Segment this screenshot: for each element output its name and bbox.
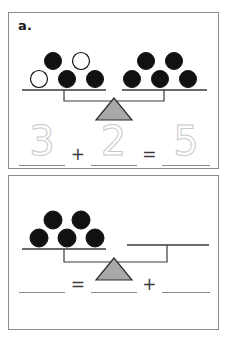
answer-blank-second-a [91, 165, 137, 166]
right-pan-counters-a [124, 53, 197, 88]
problem-panel-a: a. [8, 12, 219, 169]
traced-numeral-sum-a: 5 [173, 121, 198, 163]
problem-panel-b: = + [8, 175, 219, 330]
balance-beam-b [64, 245, 167, 262]
panel-label-a: a. [18, 18, 32, 33]
equation-row-a: 3 + 2 = 5 [19, 121, 210, 166]
balance-beam-a [64, 90, 164, 101]
answer-blank-first-a [19, 165, 65, 166]
plus-sign-a: + [71, 146, 85, 166]
worksheet: a. [0, 0, 229, 342]
answer-blank-sum-a [162, 165, 210, 166]
answer-blank-first-b [19, 292, 65, 293]
answer-blank-sum-b [162, 292, 210, 293]
left-pan-counters-a [31, 53, 104, 88]
equation-second-term-a[interactable]: 2 [91, 121, 137, 166]
equation-first-term-b[interactable] [19, 279, 65, 293]
equals-sign-a: = [142, 146, 156, 166]
traced-numeral-first-a: 3 [29, 121, 54, 163]
equation-sum-a[interactable]: 5 [162, 121, 210, 166]
plus-sign-b: + [142, 276, 156, 293]
balance-scale-b [9, 176, 218, 329]
equals-sign-b: = [71, 276, 85, 293]
equation-second-term-b[interactable] [91, 279, 137, 293]
equation-row-b: = + [19, 276, 210, 293]
equation-first-term-a[interactable]: 3 [19, 121, 65, 166]
fulcrum-triangle-a [96, 98, 132, 120]
traced-numeral-second-a: 2 [101, 121, 126, 163]
left-pan-counters-b [30, 211, 104, 247]
answer-blank-second-b [91, 292, 137, 293]
equation-sum-b[interactable] [162, 279, 210, 293]
